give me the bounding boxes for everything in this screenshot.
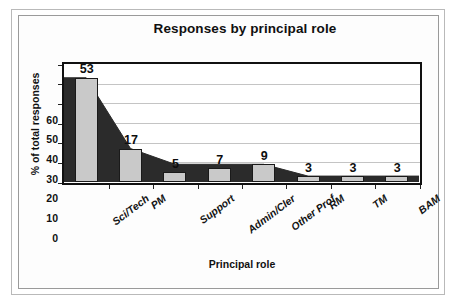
bar-value-label: 5	[155, 157, 195, 171]
bar-value-label: 9	[244, 149, 284, 163]
x-axis-tick-mark	[109, 185, 110, 189]
y-axis-tick-label: 50	[32, 134, 58, 145]
bar	[75, 78, 98, 182]
bar	[341, 176, 364, 182]
y-axis-tick-mark	[58, 163, 62, 164]
chart-figure: Responses by principal role % of total r…	[0, 0, 456, 307]
y-axis-tick-label: 0	[32, 233, 58, 244]
x-axis-tick-mark	[198, 185, 199, 189]
y-axis-tick-mark	[58, 143, 62, 144]
y-axis-tick-mark	[58, 104, 62, 105]
y-axis-tick-label: 40	[32, 154, 58, 165]
x-axis-tick-mark	[375, 185, 376, 189]
bar	[208, 168, 231, 182]
y-axis-tick-labels: 0102030405060	[32, 56, 58, 190]
x-axis-tick-mark	[242, 185, 243, 189]
bar-value-label: 3	[377, 161, 417, 175]
y-axis-tick-mark	[58, 84, 62, 85]
x-axis-tick-mark	[331, 185, 332, 189]
y-axis-tick-label: 10	[32, 213, 58, 224]
y-axis-tick-label: 20	[32, 193, 58, 204]
x-axis-tick-mark	[153, 185, 154, 189]
bar-value-label: 53	[67, 62, 107, 76]
y-axis-tick-label: 60	[32, 115, 58, 126]
bar	[119, 149, 142, 182]
x-axis-title: Principal role	[62, 258, 422, 270]
bar	[163, 172, 186, 182]
y-axis-tick-mark	[58, 65, 62, 66]
y-axis-tick-label: 30	[32, 174, 58, 185]
bar	[297, 176, 320, 182]
y-axis-tick-mark	[58, 124, 62, 125]
bar	[252, 164, 275, 182]
chart-title: Responses by principal role	[60, 21, 430, 36]
bar-value-label: 7	[200, 153, 240, 167]
x-axis-tick-mark	[420, 185, 421, 189]
x-axis-tick-mark	[286, 185, 287, 189]
y-axis-tick-mark	[58, 183, 62, 184]
bar-value-label: 17	[111, 133, 151, 147]
bar-value-label: 3	[289, 161, 329, 175]
bar-value-label: 3	[333, 161, 373, 175]
bar	[385, 176, 408, 182]
